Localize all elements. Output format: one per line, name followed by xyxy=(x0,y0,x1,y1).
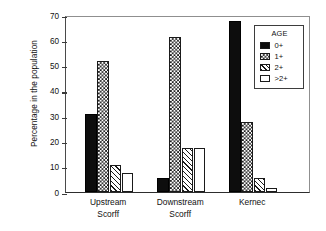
legend-item-label: 0+ xyxy=(275,41,284,50)
legend-swatch-icon xyxy=(260,53,270,61)
y-axis-tick-mark xyxy=(62,143,67,144)
bar-2+-0 xyxy=(122,173,134,192)
y-axis-tick-label: 10 xyxy=(50,163,59,173)
y-axis-tick-mark xyxy=(62,118,67,119)
legend-item-label: 1+ xyxy=(275,52,284,61)
y-axis-tick-mark xyxy=(62,17,67,18)
y-axis-tick-mark xyxy=(62,194,67,195)
legend: AGE 0+1+2+>2+ xyxy=(254,25,304,89)
legend-item-2+: 2+ xyxy=(260,62,299,73)
y-axis-title: Percentage in the population xyxy=(30,0,39,189)
bar-0+-0 xyxy=(85,114,97,192)
y-axis-tick-label: 50 xyxy=(50,62,59,72)
bar-0+-2 xyxy=(229,21,241,192)
bar-2+-0 xyxy=(110,165,122,192)
legend-title: AGE xyxy=(260,29,299,38)
y-axis-tick-label: 40 xyxy=(50,87,59,97)
y-axis-tick-label: 60 xyxy=(50,37,59,47)
legend-item-1+: 1+ xyxy=(260,51,299,62)
bar-0+-1 xyxy=(157,178,169,192)
y-axis-tick-mark xyxy=(62,92,67,93)
legend-item-0+: 0+ xyxy=(260,40,299,51)
bar-2+-1 xyxy=(194,148,206,192)
bar-2+-1 xyxy=(182,148,194,192)
legend-item-label: 2+ xyxy=(275,63,284,72)
y-axis-tick-mark xyxy=(62,168,67,169)
y-axis-tick-label: 70 xyxy=(50,12,59,22)
y-axis-tick-mark xyxy=(62,42,67,43)
bar-chart-figure: Percentage in the population 01020304050… xyxy=(0,0,326,231)
legend-swatch-icon xyxy=(260,42,270,50)
bar-1+-1 xyxy=(169,37,181,193)
legend-entries: 0+1+2+>2+ xyxy=(260,40,299,84)
bar-1+-2 xyxy=(241,122,253,192)
legend-swatch-icon xyxy=(260,64,270,72)
y-axis-tick-label: 0 xyxy=(54,189,59,199)
y-axis-tick-label: 20 xyxy=(50,138,59,148)
bar-2+-2 xyxy=(254,178,266,192)
legend-item-label: >2+ xyxy=(275,74,288,83)
bar-2+-2 xyxy=(266,188,278,192)
legend-item-2+: >2+ xyxy=(260,73,299,84)
y-axis-tick-label: 30 xyxy=(50,113,59,123)
x-axis-group-label: Kernec xyxy=(207,197,297,209)
y-axis-tick-mark xyxy=(62,67,67,68)
bar-1+-0 xyxy=(97,61,109,192)
legend-swatch-icon xyxy=(260,75,270,83)
